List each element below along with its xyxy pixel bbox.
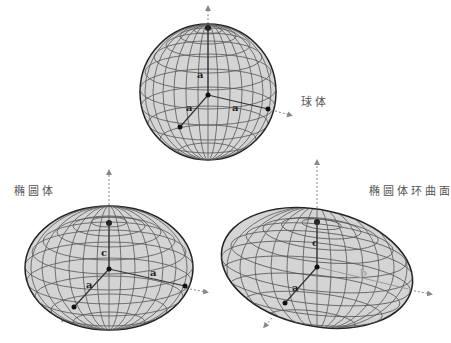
sphere-figure: a a a (140, 8, 290, 161)
radius-label-c: c (101, 247, 107, 258)
radius-label-a-horizontal: a (150, 267, 157, 278)
diagram-canvas: a a a (0, 0, 451, 343)
radius-label-b-hidden: b (360, 267, 367, 278)
radius-label-a-horizontal: a (232, 102, 239, 113)
radius-label-a-diagonal: a (186, 102, 193, 113)
radius-label-a: a (292, 282, 299, 293)
ellipsoid-label: 椭圆体 (14, 182, 56, 198)
y-axis-arrow-icon (265, 318, 272, 326)
radius-label-c: c (312, 237, 318, 248)
x-axis-arrow-icon (190, 289, 206, 292)
x-axis-arrow-icon (275, 111, 290, 115)
x-axis-arrow-icon (410, 290, 430, 294)
spheroid-label: 椭圆体环曲面 (369, 182, 451, 198)
radius-label-a-diagonal: a (86, 279, 93, 290)
radius-label-a-vertical: a (197, 69, 204, 80)
sphere-label: 球体 (301, 93, 329, 109)
